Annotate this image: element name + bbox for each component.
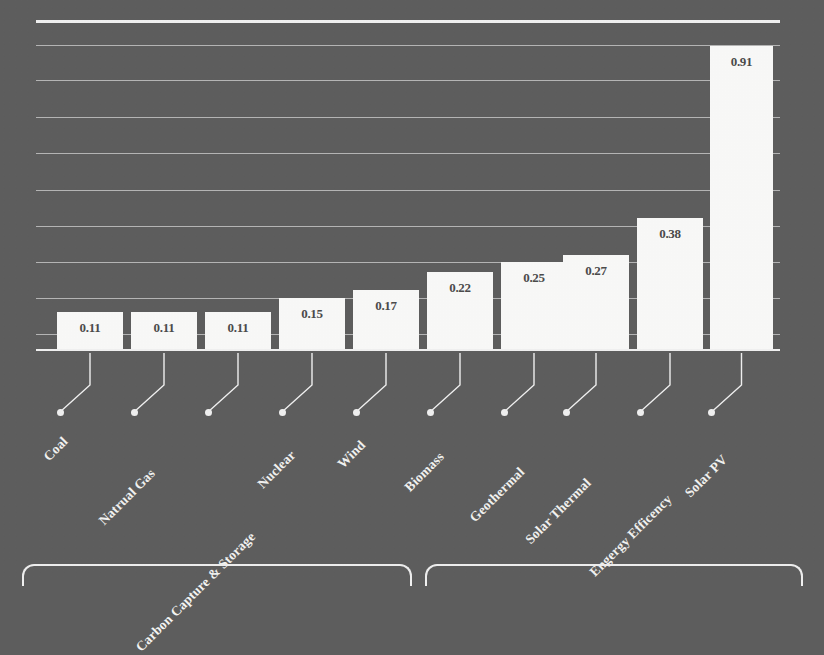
category-label: Solar Thermal: [522, 475, 594, 547]
bar-value-label: 0.17: [353, 298, 419, 314]
bar-value-label: 0.11: [57, 320, 123, 336]
bar[interactable]: 0.17: [353, 290, 419, 349]
bar-value-label: 0.91: [710, 54, 773, 70]
bar-value-label: 0.27: [563, 263, 629, 279]
category-label: Geothermal: [467, 464, 529, 526]
leader-line: [282, 353, 312, 412]
bar-value-label: 0.22: [427, 280, 493, 296]
bar[interactable]: 0.15: [279, 298, 345, 349]
leader-line: [504, 353, 534, 412]
bar[interactable]: 0.11: [205, 312, 271, 349]
bar[interactable]: 0.22: [427, 272, 493, 349]
leader-dot: [708, 409, 715, 416]
category-label: Coal: [40, 434, 71, 465]
leader-dot: [353, 409, 360, 416]
leader-line: [356, 353, 386, 412]
bar-value-label: 0.15: [279, 306, 345, 322]
leader-dot: [205, 409, 212, 416]
leader-dot: [131, 409, 138, 416]
bar-value-label: 0.11: [131, 320, 197, 336]
gridline: [36, 80, 780, 81]
leader-dot: [637, 409, 644, 416]
leader-line: [208, 353, 238, 412]
leader-line: [134, 353, 164, 412]
category-label: Nuclear: [254, 447, 299, 492]
leader-dot: [279, 409, 286, 416]
category-label: Natrual Gas: [96, 466, 159, 529]
bar[interactable]: 0.25: [501, 262, 567, 349]
bottom-panel-right[interactable]: [425, 564, 803, 586]
leader-line: [640, 353, 670, 412]
bar-value-label: 0.25: [501, 270, 567, 286]
x-axis-baseline: [36, 349, 780, 351]
bar[interactable]: 0.38: [637, 218, 703, 349]
category-label: Carbon Capture & Storage: [133, 529, 259, 655]
gridline: [36, 190, 780, 191]
category-label: Biomass: [402, 449, 448, 495]
leader-line: [60, 353, 90, 412]
bar[interactable]: 0.11: [131, 312, 197, 349]
category-label: Solar PV: [681, 452, 730, 501]
bar-value-label: 0.38: [637, 226, 703, 242]
leader-line: [712, 353, 742, 412]
gridline: [36, 45, 780, 46]
bar-value-label: 0.11: [205, 320, 271, 336]
leader-line: [566, 353, 596, 412]
bar[interactable]: 0.27: [563, 255, 629, 349]
bar[interactable]: 0.11: [57, 312, 123, 349]
leader-dot: [563, 409, 570, 416]
bar[interactable]: 0.91: [710, 46, 773, 349]
leader-line: [430, 353, 460, 412]
leader-dot: [427, 409, 434, 416]
bottom-panel-left[interactable]: [22, 564, 412, 586]
gridline: [36, 20, 780, 23]
gridline: [36, 117, 780, 118]
leader-dot: [57, 409, 64, 416]
category-label: Wind: [334, 437, 369, 472]
gridline: [36, 153, 780, 154]
leader-dot: [501, 409, 508, 416]
